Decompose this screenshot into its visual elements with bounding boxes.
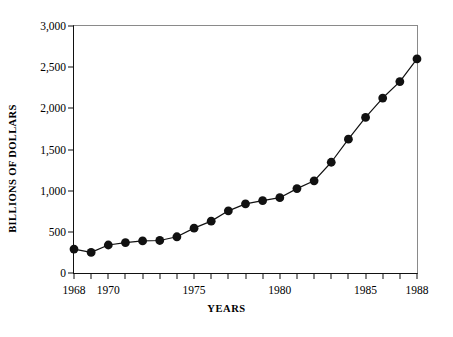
x-axis-tick xyxy=(176,273,177,279)
data-point-marker: 1980: 915 xyxy=(275,193,284,202)
x-axis-title-text: YEARS xyxy=(207,303,246,314)
x-axis-tick xyxy=(245,273,246,279)
x-axis-tick-label: 1985 xyxy=(354,284,377,296)
data-point-marker: 1988: 2600 xyxy=(413,55,422,64)
data-point-marker: 1977: 755 xyxy=(224,206,233,215)
y-axis-tick-label: 1,000 xyxy=(40,185,66,197)
data-point-marker: 1987: 2325 xyxy=(395,77,404,86)
x-axis-tick xyxy=(125,273,126,279)
series-line xyxy=(74,59,417,252)
data-series: 1968: 2901969: 2501970: 3401971: 3701972… xyxy=(74,26,417,273)
data-point-marker: 1976: 630 xyxy=(207,217,216,226)
x-axis-tick xyxy=(211,273,212,279)
x-axis-tick xyxy=(262,273,263,279)
data-point-marker: 1986: 2125 xyxy=(378,94,387,103)
y-axis-tick-label: 0 xyxy=(60,267,66,279)
x-axis-tick xyxy=(74,273,75,279)
y-axis-tick-label: 1,500 xyxy=(40,144,66,156)
x-axis-tick-label: 1988 xyxy=(406,284,429,296)
data-point-marker: 1972: 390 xyxy=(138,236,147,245)
data-point-marker: 1968: 290 xyxy=(70,245,79,254)
x-axis-tick xyxy=(91,273,92,279)
data-point-marker: 1983: 1345 xyxy=(327,158,336,167)
x-axis-tick xyxy=(296,273,297,279)
data-point-marker: 1985: 1890 xyxy=(361,113,370,122)
x-axis-tick xyxy=(228,273,229,279)
x-axis-tick xyxy=(399,273,400,279)
x-axis-tick xyxy=(417,273,418,279)
data-point-marker: 1981: 1025 xyxy=(293,184,302,193)
data-point-marker: 1971: 370 xyxy=(121,238,130,247)
x-axis-tick xyxy=(348,273,349,279)
x-axis-tick xyxy=(194,273,195,279)
x-axis-tick-label: 1968 xyxy=(63,284,86,296)
chart-figure: BILLIONS OF DOLLARS 05001,0001,5002,0002… xyxy=(0,0,453,337)
data-point-marker: 1979: 880 xyxy=(258,196,267,205)
x-axis-tick-label: 1980 xyxy=(268,284,291,296)
x-axis-tick xyxy=(382,273,383,279)
x-axis-tick xyxy=(142,273,143,279)
data-point-marker: 1982: 1120 xyxy=(310,176,319,185)
x-axis-tick xyxy=(108,273,109,279)
data-point-marker: 1975: 545 xyxy=(190,224,199,233)
x-axis-tick xyxy=(331,273,332,279)
y-axis-tick-label: 2,500 xyxy=(40,61,66,73)
data-point-marker: 1984: 1625 xyxy=(344,135,353,144)
data-point-marker: 1973: 395 xyxy=(155,236,164,245)
x-axis-tick xyxy=(314,273,315,279)
y-axis-tick-label: 500 xyxy=(49,226,66,238)
data-point-marker: 1970: 340 xyxy=(104,241,113,250)
y-axis-tick-label: 3,000 xyxy=(40,20,66,32)
x-axis-tick-label: 1970 xyxy=(97,284,120,296)
plot-area: 05001,0001,5002,0002,5003,000 1968197019… xyxy=(73,25,418,274)
data-point-marker: 1974: 440 xyxy=(173,232,182,241)
x-axis-tick-label: 1975 xyxy=(183,284,206,296)
data-point-marker: 1969: 250 xyxy=(87,248,96,257)
x-axis-tick xyxy=(159,273,160,279)
data-point-marker: 1978: 840 xyxy=(241,199,250,208)
y-axis-title-text: BILLIONS OF DOLLARS xyxy=(7,104,18,233)
x-axis-title: YEARS xyxy=(0,303,453,314)
x-axis-tick xyxy=(365,273,366,279)
x-axis-tick xyxy=(279,273,280,279)
y-axis-title: BILLIONS OF DOLLARS xyxy=(0,0,24,337)
y-axis-tick-label: 2,000 xyxy=(40,102,66,114)
